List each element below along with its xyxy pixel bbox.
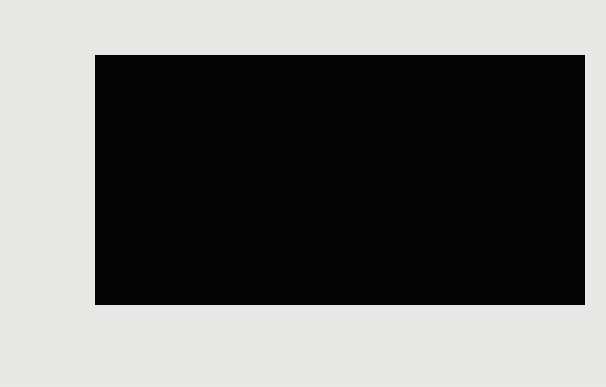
paper-use-area-chart: [0, 0, 606, 387]
plot-background: [95, 55, 585, 305]
